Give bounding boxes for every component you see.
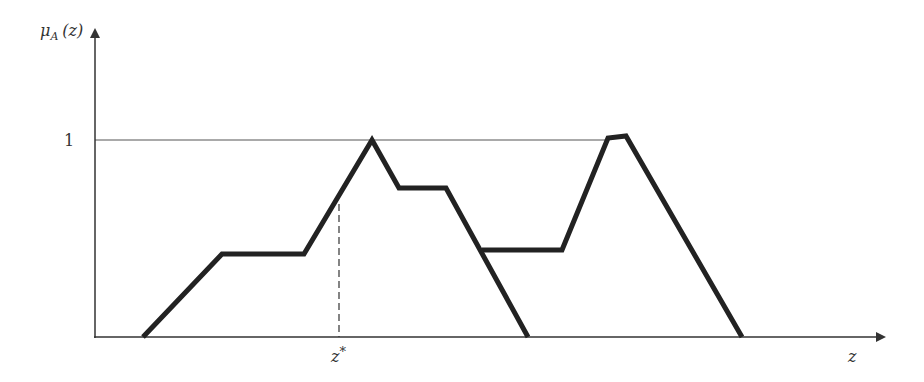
membership-curve-1 xyxy=(143,140,528,337)
y-axis-label: μA(z) xyxy=(40,21,83,43)
z-star-label: z* xyxy=(330,344,346,366)
membership-diagram: μA(z) 1 z* z xyxy=(0,0,924,382)
y-tick-label-one: 1 xyxy=(64,131,74,150)
x-axis-label: z xyxy=(847,347,857,366)
membership-curve-2 xyxy=(482,136,742,337)
